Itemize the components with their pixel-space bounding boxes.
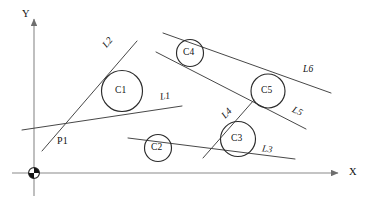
line-L1 (22, 106, 182, 130)
line-label-L1: L1 (159, 91, 171, 102)
circle-label-C1: C1 (115, 86, 127, 96)
line-label-L6: L6 (303, 65, 313, 75)
line-L6 (163, 33, 331, 93)
figure-canvas (0, 0, 366, 203)
circle-label-C5: C5 (261, 86, 273, 96)
circle-label-C4: C4 (183, 48, 195, 58)
circle-label-C3: C3 (231, 134, 243, 144)
line-L5 (156, 52, 306, 129)
origin-marker (29, 168, 40, 179)
circles-group (102, 40, 286, 162)
point-label-P1: P1 (57, 136, 68, 146)
line-label-L3: L3 (261, 144, 273, 155)
y-axis-label: Y (22, 9, 30, 20)
circle-label-C2: C2 (151, 143, 163, 153)
x-axis-label: X (349, 167, 357, 178)
geometry-figure: Y X C1 C2 C3 C4 C5 L1 L2 L3 L4 L5 L6 P1 (0, 0, 366, 203)
